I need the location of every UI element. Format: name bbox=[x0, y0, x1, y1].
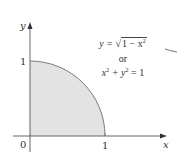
equation-line-1: y = √1 − x2 bbox=[93, 38, 153, 49]
x-axis-arrow-icon bbox=[160, 134, 167, 139]
y-axis-label: y bbox=[20, 21, 26, 31]
x-axis-label: x bbox=[163, 140, 169, 150]
y-axis-arrow-icon bbox=[28, 22, 33, 29]
equation-line-3: x2 + y2 = 1 bbox=[90, 67, 156, 78]
diagram-canvas: y 1 0 1 x y = √1 − x2 or x2 + y2 = 1 bbox=[0, 0, 189, 163]
x-tick-label: 1 bbox=[102, 141, 108, 151]
sqrt-radicand: 1 − x2 bbox=[121, 37, 147, 49]
equation-connector: or bbox=[93, 53, 153, 64]
eq3-rhs: = 1 bbox=[129, 67, 145, 78]
diagram-graphics bbox=[0, 0, 189, 163]
radicand-exponent: 2 bbox=[143, 38, 146, 44]
y-tick-label: 1 bbox=[20, 57, 26, 67]
origin-label: 0 bbox=[20, 140, 26, 150]
equation-lhs: y = bbox=[99, 38, 115, 49]
radicand-text: 1 − x bbox=[122, 38, 143, 49]
stray-pen-mark bbox=[165, 49, 177, 52]
eq3-plus-y: + y bbox=[109, 67, 125, 78]
